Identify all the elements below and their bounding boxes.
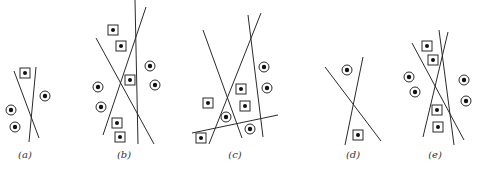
square-point-icon bbox=[20, 68, 30, 78]
square-point-icon bbox=[240, 101, 250, 111]
square-point-icon bbox=[125, 75, 135, 85]
circle-point-icon bbox=[342, 65, 352, 75]
circle-point-icon bbox=[10, 122, 20, 132]
square-point-icon bbox=[236, 84, 246, 94]
square-point-icon bbox=[115, 132, 125, 142]
circle-point-icon bbox=[93, 82, 103, 92]
panel-e: (e) bbox=[404, 30, 471, 160]
circle-point-icon bbox=[150, 80, 160, 90]
panel-label: (a) bbox=[18, 149, 32, 160]
dichotomy-figure: (a) (b) (c) (d) (e) bbox=[0, 0, 479, 172]
circle-point-icon bbox=[96, 102, 106, 112]
separating-line bbox=[96, 38, 154, 144]
panel-b: (b) bbox=[93, 0, 160, 160]
circle-point-icon bbox=[145, 61, 155, 71]
circle-point-icon bbox=[461, 96, 471, 106]
square-point-icon bbox=[432, 105, 442, 115]
panel-c: (c) bbox=[192, 13, 278, 160]
panel-a: (a) bbox=[6, 67, 50, 160]
panel-d: (d) bbox=[325, 57, 381, 160]
square-point-icon bbox=[108, 25, 118, 35]
square-point-icon bbox=[422, 41, 432, 51]
circle-point-icon bbox=[6, 105, 16, 115]
circle-point-icon bbox=[410, 87, 420, 97]
circle-point-icon bbox=[262, 83, 272, 93]
separating-line bbox=[135, 0, 138, 144]
square-point-icon bbox=[433, 122, 443, 132]
panel-label: (c) bbox=[228, 149, 242, 160]
circle-point-icon bbox=[221, 112, 231, 122]
circle-point-icon bbox=[259, 62, 269, 72]
square-point-icon bbox=[196, 133, 206, 143]
square-point-icon bbox=[203, 98, 213, 108]
panel-label: (d) bbox=[346, 149, 360, 160]
circle-point-icon bbox=[245, 124, 255, 134]
square-point-icon bbox=[112, 118, 122, 128]
circle-point-icon bbox=[40, 91, 50, 101]
square-point-icon bbox=[116, 41, 126, 51]
panel-label: (e) bbox=[428, 149, 442, 160]
panel-label: (b) bbox=[117, 149, 131, 160]
circle-point-icon bbox=[404, 72, 414, 82]
square-point-icon bbox=[428, 55, 438, 65]
circle-point-icon bbox=[459, 75, 469, 85]
square-point-icon bbox=[353, 130, 363, 140]
